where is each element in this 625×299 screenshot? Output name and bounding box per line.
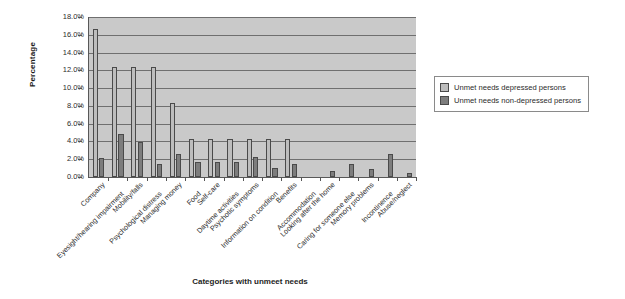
bar-non-depressed (349, 164, 354, 177)
bar-non-depressed (253, 157, 258, 177)
x-axis-tick-mark (224, 177, 225, 181)
bar-non-depressed (157, 164, 162, 177)
x-axis-tick-mark (281, 177, 282, 181)
legend-item: Unmet needs depressed persons (440, 81, 581, 94)
y-axis-tick-mark (78, 159, 82, 160)
y-axis-tick-mark (78, 70, 82, 71)
x-axis-tick-mark (108, 177, 109, 181)
bar-depressed (189, 139, 194, 177)
y-axis-title: Percentage (28, 5, 37, 125)
bar-depressed (170, 103, 175, 177)
bar-depressed (151, 67, 156, 177)
x-axis-tick-mark (147, 177, 148, 181)
bar-non-depressed (138, 142, 143, 177)
x-axis-tick-mark (301, 177, 302, 181)
bar-non-depressed (407, 173, 412, 177)
x-axis-tick-mark (243, 177, 244, 181)
x-axis-tick-mark (397, 177, 398, 181)
bar-depressed (285, 139, 290, 177)
bar-depressed (247, 139, 252, 177)
x-axis-tick-mark (378, 177, 379, 181)
bar-depressed (208, 139, 213, 177)
legend-label-depressed: Unmet needs depressed persons (454, 83, 566, 92)
y-axis-tick-mark (78, 141, 82, 142)
bar-non-depressed (118, 134, 123, 177)
y-axis-tick-mark (78, 124, 82, 125)
chart-legend: Unmet needs depressed persons Unmet need… (434, 76, 589, 112)
bar-non-depressed (234, 162, 239, 177)
bar-non-depressed (330, 171, 335, 177)
bar-depressed (93, 29, 98, 177)
x-axis-tick-mark (358, 177, 359, 181)
y-axis-tick-mark (78, 35, 82, 36)
bar-depressed (112, 67, 117, 177)
legend-item: Unmet needs non-depressed persons (440, 94, 581, 107)
bar-chart: Percentage 18.0%16.0%14.0%12.0%10.0%8.0%… (0, 0, 625, 299)
y-axis-tick-mark (78, 17, 82, 18)
x-axis-tick-mark (339, 177, 340, 181)
y-axis-tick-labels: 18.0%16.0%14.0%12.0%10.0%8.0%6.0%4.0%2.0… (38, 0, 84, 190)
y-axis-tick-mark (78, 177, 82, 178)
legend-swatch-depressed-icon (440, 83, 449, 92)
x-axis-tick-mark (320, 177, 321, 181)
bar-depressed (227, 139, 232, 177)
y-axis-tick-mark (78, 53, 82, 54)
plot-area (88, 17, 416, 178)
bar-series-container (89, 17, 416, 177)
bar-non-depressed (176, 154, 181, 177)
legend-swatch-non-depressed-icon (440, 96, 449, 105)
bar-non-depressed (272, 168, 277, 177)
x-axis-tick-mark (204, 177, 205, 181)
x-axis-tick-mark (416, 177, 417, 181)
y-axis-tick-mark (78, 106, 82, 107)
bar-non-depressed (369, 169, 374, 177)
x-axis-tick-mark (127, 177, 128, 181)
bar-non-depressed (195, 162, 200, 177)
bar-non-depressed (388, 154, 393, 177)
x-axis-tick-mark (166, 177, 167, 181)
bar-non-depressed (292, 164, 297, 177)
bar-depressed (131, 67, 136, 177)
legend-label-non-depressed: Unmet needs non-depressed persons (454, 96, 581, 105)
y-axis-tick-mark (78, 88, 82, 89)
bar-non-depressed (215, 162, 220, 177)
bar-depressed (266, 139, 271, 177)
bar-non-depressed (99, 158, 104, 177)
x-axis-tick-mark (262, 177, 263, 181)
x-axis-title: Categories with unmeet needs (0, 277, 500, 286)
x-axis-tick-mark (185, 177, 186, 181)
